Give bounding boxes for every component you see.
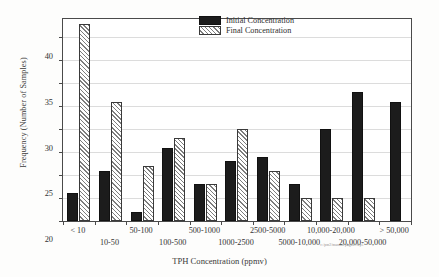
y-axis-tick: 20 <box>59 129 63 130</box>
y-axis-tick-label: 20 <box>45 235 53 244</box>
y-axis-tick-label: 25 <box>45 189 53 198</box>
bar-group <box>158 138 190 221</box>
figure-filepath-annotation: c:/pm2/manual/pbgas1.wp1 <box>296 243 388 247</box>
y-axis-tick: 40 <box>59 37 63 38</box>
legend-swatch-initial <box>199 16 221 25</box>
y-axis-tick-label: 30 <box>45 143 53 152</box>
legend-item-initial: Initial Concentration <box>199 16 294 25</box>
x-axis-tick <box>284 221 285 225</box>
bar-initial <box>225 161 236 221</box>
y-axis-tick-label: 35 <box>45 97 53 106</box>
bar-final <box>206 184 217 221</box>
bar-final <box>237 129 248 221</box>
x-axis-title: TPH Concentration (ppmv) <box>0 256 439 266</box>
bar-final <box>332 198 343 221</box>
y-axis-tick: 35 <box>59 60 63 61</box>
legend-label-initial: Initial Concentration <box>226 16 294 25</box>
bar-group <box>316 129 348 221</box>
chart-legend: Initial Concentration Final Concentratio… <box>196 14 297 37</box>
bar-group <box>253 157 285 221</box>
bar-final <box>301 198 312 221</box>
bar-initial <box>67 193 78 221</box>
y-axis-title: Frequency (Number of Samples) <box>19 28 28 198</box>
x-axis-tick <box>316 221 317 225</box>
bar-chart-figure: Frequency (Number of Samples) 0510152025… <box>0 0 439 277</box>
x-axis-tick <box>63 221 64 225</box>
y-axis-tick: 25 <box>59 106 63 107</box>
bar-initial <box>352 92 363 221</box>
x-axis-tick <box>221 221 222 225</box>
bar-initial <box>131 212 142 221</box>
legend-swatch-final <box>199 26 221 35</box>
y-axis-tick: 5 <box>59 198 63 199</box>
bar-initial <box>162 148 173 221</box>
bar-final <box>269 171 280 222</box>
x-axis-tick <box>95 221 96 225</box>
x-axis-tick-label: 2500-5000 <box>250 226 285 235</box>
bar-initial <box>257 157 268 221</box>
bar-initial <box>390 102 401 221</box>
x-axis-tick-label: 500-1000 <box>189 226 220 235</box>
y-axis-tick: 30 <box>59 83 63 84</box>
bar-group <box>379 102 411 221</box>
bar-final <box>364 198 375 221</box>
x-axis-tick <box>126 221 127 225</box>
x-axis-tick <box>158 221 159 225</box>
x-axis-tick-label: > 50,000 <box>380 226 409 235</box>
bar-group <box>126 166 158 221</box>
x-axis-tick-label: 100-500 <box>159 238 186 247</box>
bar-final <box>79 24 90 221</box>
bar-initial <box>99 171 110 222</box>
x-axis-tick-label: 50-100 <box>129 226 152 235</box>
y-axis-tick: 10 <box>59 175 63 176</box>
bar-group <box>221 129 253 221</box>
bar-group <box>95 102 127 221</box>
bar-group <box>63 24 95 221</box>
x-axis-tick-label: 10-50 <box>100 238 119 247</box>
bar-initial <box>289 184 300 221</box>
bar-final <box>174 138 185 221</box>
bar-final <box>143 166 154 221</box>
y-axis-tick: 15 <box>59 152 63 153</box>
bar-group <box>284 184 316 221</box>
plot-area: 0510152025303540 <box>62 18 412 222</box>
bar-initial <box>320 129 331 221</box>
x-axis-tick <box>411 221 412 225</box>
x-axis-tick <box>348 221 349 225</box>
y-axis-tick-label: 40 <box>45 51 53 60</box>
x-axis-tick <box>253 221 254 225</box>
bar-final <box>111 102 122 221</box>
bar-initial <box>194 184 205 221</box>
legend-item-final: Final Concentration <box>199 26 294 35</box>
x-axis-tick-label: 10,000-20,000 <box>307 226 355 235</box>
x-axis-tick <box>190 221 191 225</box>
bar-group <box>190 184 222 221</box>
bar-group <box>348 92 380 221</box>
x-axis-tick <box>379 221 380 225</box>
page-background: Frequency (Number of Samples) 0510152025… <box>0 0 439 277</box>
legend-label-final: Final Concentration <box>226 26 291 35</box>
x-axis-tick-label: 1000-2500 <box>218 238 253 247</box>
bars-layer <box>63 19 411 221</box>
x-axis-tick-label: < 10 <box>70 226 85 235</box>
